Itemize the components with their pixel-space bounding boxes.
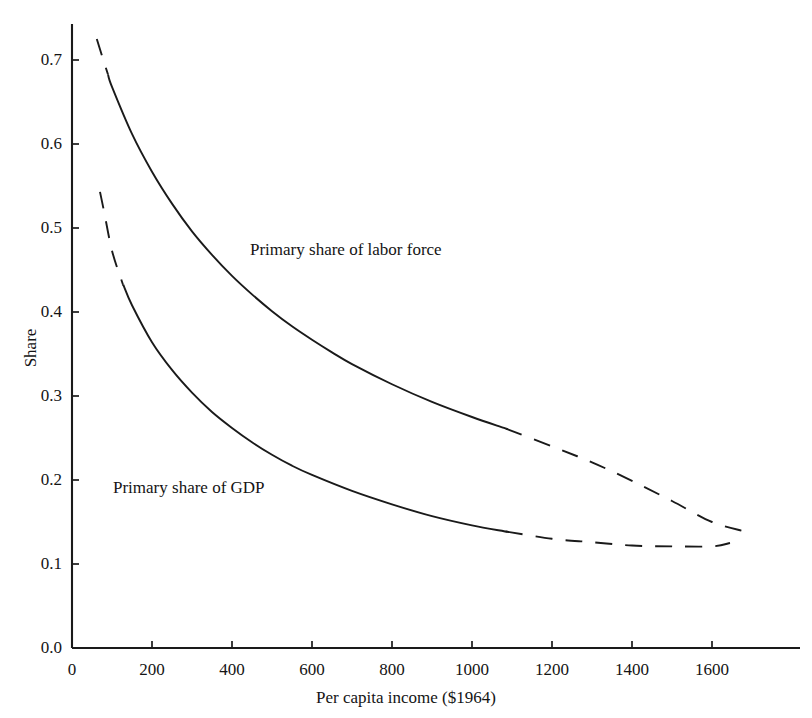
y-axis-tick-label: 0.3 xyxy=(0,386,62,406)
series-annotation-gdp: Primary share of GDP xyxy=(113,478,265,498)
x-axis-tick-label: 200 xyxy=(139,660,165,680)
y-axis-tick-label: 0.4 xyxy=(0,302,62,322)
y-axis-tick-label: 0.1 xyxy=(0,554,62,574)
y-axis-tick-label: 0.7 xyxy=(0,50,62,70)
y-axis-tick-label: 0.2 xyxy=(0,470,62,490)
series-labor-force-line-dashed-tail xyxy=(506,429,744,532)
y-axis-tick-label: 0.5 xyxy=(0,218,62,238)
x-axis-tick-label: 400 xyxy=(219,660,245,680)
x-axis-tick-label: 600 xyxy=(299,660,325,680)
chart-figure: 0.00.10.20.30.40.50.60.7 020040060080010… xyxy=(0,0,812,718)
x-axis-title: Per capita income ($1964) xyxy=(316,688,496,708)
series-gdp-line-dashed-head xyxy=(100,192,123,285)
x-axis-tick-label: 1000 xyxy=(455,660,489,680)
chart-axes xyxy=(72,24,800,648)
y-axis-title: Share xyxy=(21,329,41,368)
chart-series-group xyxy=(97,39,744,547)
x-axis-tick-label: 1200 xyxy=(535,660,569,680)
y-axis-tick-label: 0.6 xyxy=(0,134,62,154)
y-axis-ticks xyxy=(72,60,79,648)
x-axis-tick-label: 1600 xyxy=(695,660,729,680)
x-axis-tick-label: 800 xyxy=(379,660,405,680)
y-axis-tick-label: 0.0 xyxy=(0,638,62,658)
series-gdp-line-dashed-tail xyxy=(506,532,730,547)
x-axis-tick-label: 1400 xyxy=(615,660,649,680)
x-axis-tick-label: 0 xyxy=(68,660,77,680)
series-labor-force-line-dashed-head xyxy=(97,39,108,74)
chart-plot-area xyxy=(0,0,812,718)
series-annotation-labor-force: Primary share of labor force xyxy=(250,240,442,260)
